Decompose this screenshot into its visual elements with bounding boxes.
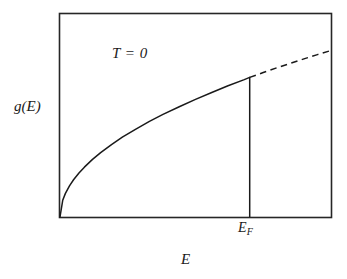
y-axis-label: g(E) [14,99,41,114]
x-axis-label: E [181,252,190,267]
fermi-energy-label: EF [238,221,253,237]
density-of-states-figure: g(E) T = 0 EF E [0,0,347,279]
fermi-energy-base: E [238,220,247,235]
temperature-annotation: T = 0 [112,46,148,61]
fermi-energy-subscript: F [247,226,253,237]
plot-canvas [0,0,347,279]
figure-background [0,0,347,279]
